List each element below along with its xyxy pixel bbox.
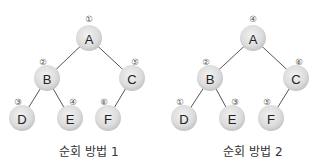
visit-order-mark: ① — [85, 14, 93, 24]
tree-node-F: F⑤ — [258, 97, 284, 131]
node-label: B — [43, 72, 52, 87]
node-label: A — [249, 32, 258, 47]
node-label: E — [66, 112, 75, 127]
node-label: D — [179, 112, 188, 127]
tree-node-D: D③ — [9, 97, 35, 131]
visit-order-mark: ⑥ — [100, 97, 108, 107]
tree-traversal-1: A①B②C⑤D③E④F⑥ — [9, 14, 145, 131]
caption-traversal-1: 순회 방법 1 — [34, 142, 144, 159]
visit-order-mark: ⑥ — [295, 57, 303, 67]
node-label: C — [127, 72, 136, 87]
tree-node-C: C⑥ — [283, 57, 309, 91]
node-label: F — [104, 112, 112, 127]
visit-order-mark: ③ — [14, 97, 22, 107]
visit-order-mark: ⑤ — [131, 57, 139, 67]
tree-node-B: B② — [197, 57, 223, 91]
node-label: A — [85, 32, 94, 47]
visit-order-mark: ④ — [249, 14, 257, 24]
visit-order-mark: ④ — [69, 97, 77, 107]
tree-node-A: A④ — [240, 14, 266, 51]
node-label: B — [206, 72, 215, 87]
tree-node-D: D① — [171, 97, 197, 131]
node-label: F — [267, 112, 275, 127]
tree-node-A: A① — [76, 14, 102, 51]
tree-node-C: C⑤ — [119, 57, 145, 91]
tree-node-B: B② — [34, 57, 60, 91]
caption-traversal-2: 순회 방법 2 — [198, 142, 308, 159]
tree-traversal-2: A④B②C⑥D①E③F⑤ — [171, 14, 309, 131]
node-label: C — [291, 72, 300, 87]
visit-order-mark: ① — [176, 97, 184, 107]
visit-order-mark: ⑤ — [263, 97, 271, 107]
visit-order-mark: ② — [39, 57, 47, 67]
visit-order-mark: ② — [202, 57, 210, 67]
visit-order-mark: ③ — [231, 97, 239, 107]
node-label: E — [228, 112, 237, 127]
node-label: D — [17, 112, 26, 127]
